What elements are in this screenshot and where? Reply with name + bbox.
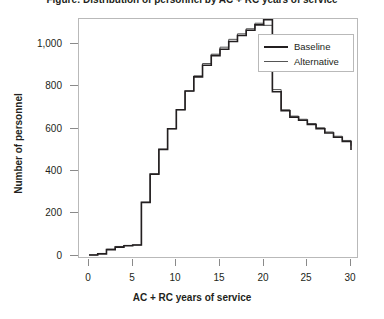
y-tick-mark-600: [70, 128, 78, 129]
x-axis-title: AC + RC years of service: [0, 292, 384, 303]
x-tick-mark-30: [350, 259, 351, 266]
chart-legend: Baseline Alternative: [258, 34, 354, 72]
y-tick-label-800: 800: [20, 80, 62, 91]
y-tick-mark-400: [70, 170, 78, 171]
x-tick-mark-15: [219, 259, 220, 266]
x-tick-mark-20: [263, 259, 264, 266]
x-tick-label-5: 5: [117, 272, 147, 283]
x-tick-label-20: 20: [248, 272, 278, 283]
figure-title-cropped: Figure: Distribution of personnel by AC …: [0, 0, 384, 9]
legend-swatch-baseline-icon: [264, 46, 288, 48]
x-tick-label-30: 30: [335, 272, 365, 283]
figure-title-text: Figure: Distribution of personnel by AC …: [46, 0, 337, 5]
y-tick-label-1000: 1,000: [20, 38, 62, 49]
legend-item-baseline: Baseline: [264, 39, 348, 54]
x-tick-label-10: 10: [160, 272, 190, 283]
legend-label-baseline: Baseline: [294, 41, 330, 52]
y-tick-label-200: 200: [20, 207, 62, 218]
y-tick-mark-0: [70, 255, 78, 256]
legend-swatch-alternative-icon: [264, 61, 288, 62]
legend-item-alternative: Alternative: [264, 54, 348, 69]
y-tick-mark-800: [70, 85, 78, 86]
x-tick-label-0: 0: [73, 272, 103, 283]
x-tick-mark-25: [306, 259, 307, 266]
x-tick-label-25: 25: [291, 272, 321, 283]
x-tick-label-15: 15: [204, 272, 234, 283]
y-tick-label-600: 600: [20, 123, 62, 134]
y-tick-label-0: 0: [20, 250, 62, 261]
x-tick-mark-5: [132, 259, 133, 266]
x-tick-mark-10: [175, 259, 176, 266]
y-tick-mark-200: [70, 212, 78, 213]
y-tick-mark-1000: [70, 43, 78, 44]
x-tick-mark-0: [88, 259, 89, 266]
chart-figure: Figure: Distribution of personnel by AC …: [0, 0, 384, 319]
y-tick-label-400: 400: [20, 165, 62, 176]
legend-label-alternative: Alternative: [294, 56, 339, 67]
